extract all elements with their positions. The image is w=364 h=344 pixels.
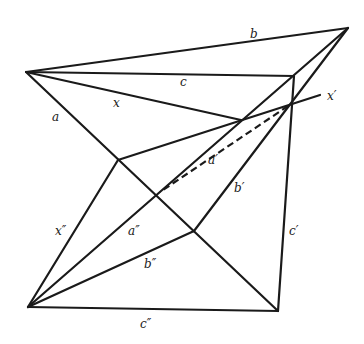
label-x: x bbox=[113, 96, 120, 110]
label-b-dprime: b″ bbox=[144, 257, 157, 271]
edge-a-dprime bbox=[28, 28, 348, 307]
label-b: b bbox=[250, 27, 258, 41]
label-b-prime: b′ bbox=[234, 181, 245, 195]
edge-x-dprime bbox=[28, 160, 118, 307]
edge-c-dprime bbox=[28, 307, 278, 311]
label-c-dprime: c″ bbox=[140, 317, 152, 331]
edge-b-prime bbox=[194, 28, 348, 231]
edge-b bbox=[26, 28, 348, 72]
label-a-prime: a′ bbox=[208, 153, 218, 167]
label-x-prime: x′ bbox=[327, 89, 337, 103]
label-c: c bbox=[180, 75, 187, 89]
geometric-diagram: b c x a x′ a′ b′ c′ x″ a″ b″ c″ bbox=[0, 0, 364, 344]
label-a-dprime: a″ bbox=[128, 224, 140, 238]
edge-c bbox=[26, 72, 294, 76]
label-a: a bbox=[52, 110, 59, 124]
edge-b-dprime bbox=[28, 231, 194, 307]
label-x-dprime: x″ bbox=[55, 224, 67, 238]
edge-a-prime-dashed bbox=[160, 106, 288, 192]
label-c-prime: c′ bbox=[289, 224, 299, 238]
